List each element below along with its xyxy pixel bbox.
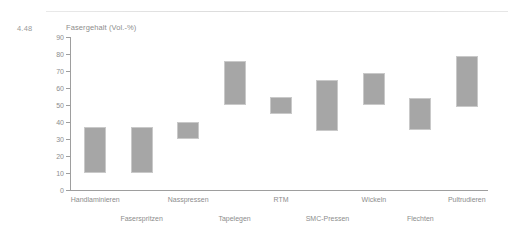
figure-container: 4.48 Fasergehalt (Vol.-%) 01020304050607… — [0, 0, 512, 241]
category-label-pultrudieren: Pultrudieren — [448, 195, 486, 204]
category-label-wickeln: Wickeln — [362, 195, 387, 204]
y-tick-label: 20 — [56, 153, 64, 160]
range-bar — [270, 97, 292, 114]
x-axis-line — [70, 190, 488, 191]
category-label-faserspritzen: Faserspritzen — [119, 214, 165, 223]
range-bar — [84, 127, 106, 173]
y-tick-label: 60 — [56, 85, 64, 92]
category-label-handlaminieren: Handlaminieren — [71, 195, 120, 204]
y-tick-mark — [66, 139, 70, 140]
category-label-tapelegen: Tapelegen — [212, 214, 258, 223]
y-tick-mark — [66, 122, 70, 123]
range-bar — [224, 61, 246, 105]
range-bar — [363, 73, 385, 105]
range-bar — [316, 80, 338, 131]
range-bar — [177, 122, 199, 139]
y-tick-mark — [66, 37, 70, 38]
range-bar — [456, 56, 478, 107]
y-tick-label: 0 — [60, 187, 64, 194]
y-tick-mark — [66, 71, 70, 72]
y-tick-mark — [66, 54, 70, 55]
y-tick-label: 10 — [56, 170, 64, 177]
figure-number: 4.48 — [17, 24, 32, 33]
range-bar — [131, 127, 153, 173]
range-bar — [409, 98, 431, 130]
y-tick-mark — [66, 190, 70, 191]
y-tick-label: 50 — [56, 102, 64, 109]
y-tick-label: 30 — [56, 136, 64, 143]
y-tick-mark — [66, 105, 70, 106]
y-tick-label: 80 — [56, 51, 64, 58]
category-label-smc-pressen: SMC-Pressen — [304, 214, 350, 223]
category-label-rtm: RTM — [273, 195, 288, 204]
y-axis-line — [70, 37, 71, 190]
y-tick-mark — [66, 88, 70, 89]
top-divider-rule — [46, 11, 508, 12]
y-tick-label: 40 — [56, 119, 64, 126]
y-tick-mark — [66, 156, 70, 157]
category-label-flechten: Flechten — [397, 214, 443, 223]
chart-title: Fasergehalt (Vol.-%) — [66, 23, 136, 32]
y-tick-mark — [66, 173, 70, 174]
y-tick-label: 70 — [56, 68, 64, 75]
category-label-nasspressen: Nasspressen — [168, 195, 209, 204]
plot-area: 0102030405060708090 — [70, 37, 490, 190]
y-tick-label: 90 — [56, 34, 64, 41]
